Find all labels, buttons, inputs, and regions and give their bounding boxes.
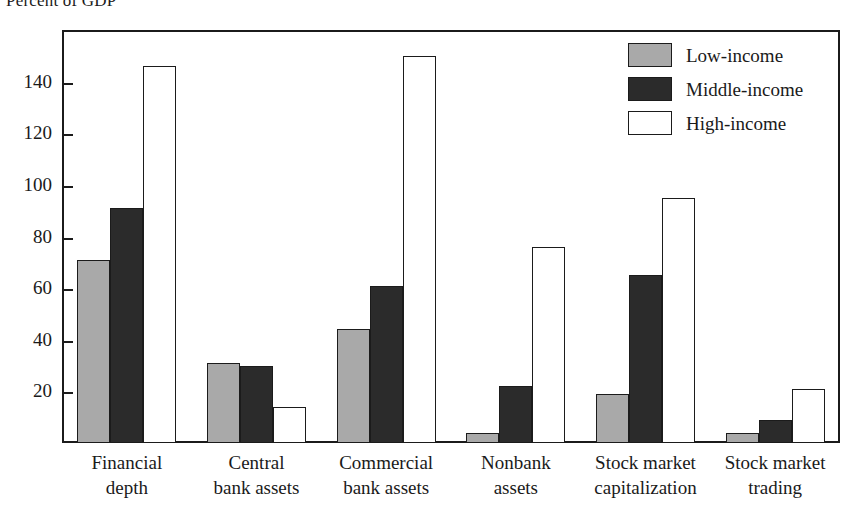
y-axis-tick-label: 60 (6, 278, 52, 297)
x-axis-group-label-line: depth (54, 475, 200, 500)
x-axis-group-label: Centralbank assets (184, 450, 330, 500)
chart-title: Percent of GDP (6, 0, 116, 11)
legend: Low-incomeMiddle-incomeHigh-income (628, 38, 828, 140)
legend-swatch-low-income (628, 43, 672, 67)
x-axis-group-label-line: assets (443, 475, 589, 500)
legend-label: Low-income (686, 46, 783, 65)
bar-chart-figure: Percent of GDP 20406080100120140 Financi… (0, 0, 856, 526)
y-axis-tick (64, 186, 73, 188)
y-axis-tick (64, 238, 73, 240)
legend-swatch-high-income (628, 111, 672, 135)
x-axis-group-label-line: Financial (54, 450, 200, 475)
x-axis-group-label-line: Stock market (702, 450, 848, 475)
y-axis-tick (64, 134, 73, 136)
y-axis-tick (64, 289, 73, 291)
y-axis-tick (64, 83, 73, 85)
legend-swatch-middle-income (628, 77, 672, 101)
x-axis-group-label-line: bank assets (184, 475, 330, 500)
x-axis-group-label: Nonbankassets (443, 450, 589, 500)
legend-label: High-income (686, 114, 786, 133)
x-axis-group-label: Financialdepth (54, 450, 200, 500)
y-axis-tick-label: 140 (6, 72, 52, 91)
y-axis-tick-label: 120 (6, 123, 52, 142)
y-axis-tick (64, 341, 73, 343)
y-axis-tick-label: 20 (6, 381, 52, 400)
x-axis-group-label-line: capitalization (573, 475, 719, 500)
x-axis-group-label-line: trading (702, 475, 848, 500)
legend-label: Middle-income (686, 80, 803, 99)
x-axis-group-label-line: Central (184, 450, 330, 475)
x-axis-group-label-line: bank assets (313, 475, 459, 500)
x-axis-group-label-line: Stock market (573, 450, 719, 475)
x-axis-labels: FinancialdepthCentralbank assetsCommerci… (62, 450, 840, 526)
legend-item: Low-income (628, 38, 828, 72)
y-axis-tick-label: 40 (6, 330, 52, 349)
x-axis-group-label-line: Commercial (313, 450, 459, 475)
y-axis-tick-label: 100 (6, 175, 52, 194)
x-axis-group-label: Stock markettrading (702, 450, 848, 500)
x-axis-group-label-line: Nonbank (443, 450, 589, 475)
x-axis-group-label: Stock marketcapitalization (573, 450, 719, 500)
y-axis: 20406080100120140 (0, 30, 52, 443)
legend-item: High-income (628, 106, 828, 140)
legend-item: Middle-income (628, 72, 828, 106)
x-axis-group-label: Commercialbank assets (313, 450, 459, 500)
y-axis-tick-label: 80 (6, 227, 52, 246)
y-axis-tick (64, 392, 73, 394)
